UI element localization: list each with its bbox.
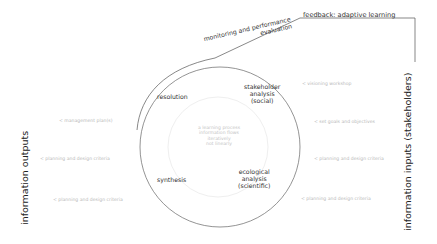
input-item: < set goals and objectives bbox=[314, 119, 375, 124]
input-item: < planning and design criteria bbox=[301, 196, 371, 201]
output-item: < management plan(s) bbox=[59, 118, 112, 123]
adaptive-learning-diagram: feedback: adaptive learning monitoring a… bbox=[0, 0, 437, 244]
feedback-loop-line bbox=[137, 18, 415, 130]
input-item: < planning and design criteria bbox=[314, 156, 384, 161]
feedback-label: feedback: adaptive learning bbox=[303, 12, 395, 20]
core-text: a learning process information flows ite… bbox=[193, 125, 245, 146]
input-item: < visioning workshop bbox=[302, 81, 351, 86]
right-axis-label: information inputs (stakeholders) bbox=[402, 73, 413, 231]
output-item: < planning and design criteria bbox=[40, 156, 110, 161]
stage-resolution: resolution bbox=[157, 93, 188, 100]
left-axis-label: information outputs bbox=[19, 131, 30, 225]
output-item: < planning and design criteria bbox=[53, 197, 123, 202]
stage-synthesis: synthesis bbox=[157, 176, 186, 183]
stage-stakeholder-analysis: stakeholder analysis (social) bbox=[244, 83, 280, 104]
stage-ecological-analysis: ecological analysis (scientific) bbox=[238, 168, 270, 189]
